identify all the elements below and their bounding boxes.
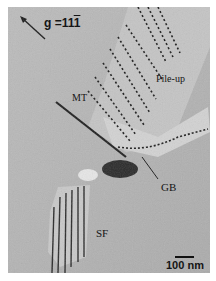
mt-label: MT [72,92,87,103]
gb-label: GB [161,181,176,193]
pile-up-label: Pile-up [156,73,185,84]
sf-label: SF [96,227,108,239]
diffraction-vector-label: g =111 [44,16,80,30]
scale-bar [175,256,194,258]
scale-bar-label: 100 nm [166,259,204,271]
tem-micrograph: g =111 Pile-up MT GB SF 100 nm [8,7,210,273]
micrograph-image [8,7,210,273]
